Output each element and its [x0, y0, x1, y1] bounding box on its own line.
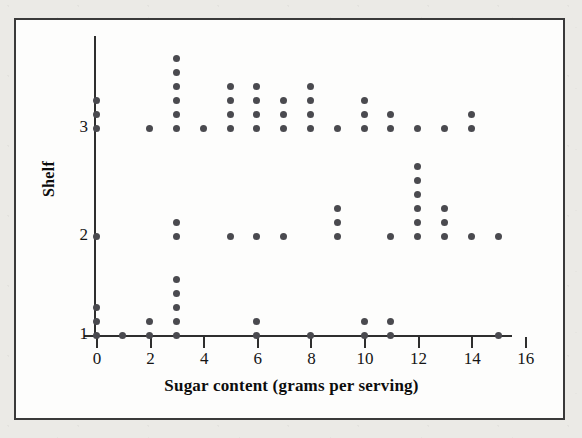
data-point: [495, 233, 502, 240]
data-point: [93, 97, 100, 104]
data-point: [361, 125, 368, 132]
data-point: [227, 125, 234, 132]
data-point: [173, 276, 180, 283]
data-point: [414, 163, 421, 170]
x-tick-10: [364, 337, 366, 348]
data-point: [173, 111, 180, 118]
x-tick-6: [257, 337, 259, 348]
page-background: 0246810121416 123 Shelf Sugar content (g…: [0, 0, 582, 438]
data-point: [387, 111, 394, 118]
data-point: [441, 233, 448, 240]
data-point: [253, 125, 260, 132]
data-point: [468, 125, 475, 132]
data-point: [173, 219, 180, 226]
data-point: [334, 125, 341, 132]
data-point: [280, 125, 287, 132]
data-point: [200, 125, 207, 132]
data-point: [173, 233, 180, 240]
x-tick-8: [310, 337, 312, 348]
data-point: [173, 125, 180, 132]
data-point: [387, 125, 394, 132]
data-point: [387, 332, 394, 339]
data-point: [414, 233, 421, 240]
data-point: [361, 111, 368, 118]
data-point: [93, 125, 100, 132]
data-point: [173, 304, 180, 311]
x-tick-label-16: 16: [509, 349, 543, 369]
x-axis-title: Sugar content (grams per serving): [16, 376, 567, 396]
x-tick-label-14: 14: [455, 349, 489, 369]
x-tick-12: [418, 337, 420, 348]
data-point: [173, 332, 180, 339]
data-point: [387, 318, 394, 325]
data-point: [307, 332, 314, 339]
data-point: [173, 55, 180, 62]
data-point: [334, 233, 341, 240]
data-point: [173, 97, 180, 104]
data-point: [280, 233, 287, 240]
data-point: [173, 69, 180, 76]
y-tick-label-2: 2: [68, 225, 88, 245]
data-point: [414, 205, 421, 212]
y-axis-line: [94, 36, 96, 336]
figure-frame: 0246810121416 123 Shelf Sugar content (g…: [14, 18, 565, 420]
data-point: [173, 83, 180, 90]
data-point: [93, 318, 100, 325]
y-tick-label-3: 3: [68, 117, 88, 137]
data-point: [227, 233, 234, 240]
data-point: [307, 125, 314, 132]
data-point: [307, 97, 314, 104]
data-point: [253, 318, 260, 325]
data-point: [253, 332, 260, 339]
data-point: [173, 290, 180, 297]
data-point: [227, 111, 234, 118]
x-tick-0: [96, 337, 98, 348]
data-point: [253, 83, 260, 90]
data-point: [280, 111, 287, 118]
x-tick-label-8: 8: [294, 349, 328, 369]
data-point: [253, 233, 260, 240]
data-point: [361, 318, 368, 325]
data-point: [361, 97, 368, 104]
data-point: [334, 219, 341, 226]
data-point: [227, 97, 234, 104]
data-point: [146, 318, 153, 325]
data-point: [93, 233, 100, 240]
data-point: [414, 219, 421, 226]
data-point: [414, 191, 421, 198]
data-point: [307, 83, 314, 90]
data-point: [414, 177, 421, 184]
data-point: [441, 205, 448, 212]
data-point: [93, 111, 100, 118]
data-point: [468, 233, 475, 240]
data-point: [414, 125, 421, 132]
data-point: [307, 111, 314, 118]
data-point: [146, 125, 153, 132]
data-point: [146, 332, 153, 339]
data-point: [119, 332, 126, 339]
data-point: [441, 219, 448, 226]
x-tick-14: [471, 337, 473, 348]
data-point: [387, 233, 394, 240]
x-tick-label-10: 10: [348, 349, 382, 369]
data-point: [334, 205, 341, 212]
x-tick-label-2: 2: [134, 349, 168, 369]
x-tick-16: [525, 337, 527, 348]
data-point: [253, 97, 260, 104]
x-tick-label-0: 0: [80, 349, 114, 369]
dot-plot: 0246810121416 123 Shelf Sugar content (g…: [16, 20, 563, 418]
data-point: [468, 111, 475, 118]
x-tick-label-6: 6: [241, 349, 275, 369]
data-point: [173, 318, 180, 325]
data-point: [361, 332, 368, 339]
y-tick-label-1: 1: [68, 324, 88, 344]
data-point: [93, 304, 100, 311]
data-point: [441, 125, 448, 132]
data-point: [93, 332, 100, 339]
y-axis-title: Shelf: [40, 134, 58, 224]
data-point: [253, 111, 260, 118]
x-tick-label-12: 12: [402, 349, 436, 369]
x-tick-2: [150, 337, 152, 348]
data-point: [227, 83, 234, 90]
data-point: [495, 332, 502, 339]
